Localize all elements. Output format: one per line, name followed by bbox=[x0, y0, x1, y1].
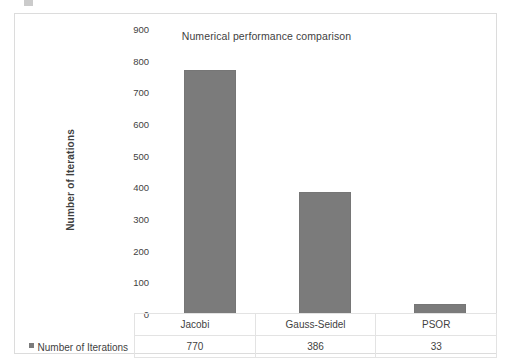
bar-gauss-seidel bbox=[299, 192, 351, 314]
legend-swatch-icon bbox=[29, 343, 34, 348]
value-cell-1: 386 bbox=[255, 336, 376, 358]
value-cell-0: 770 bbox=[135, 336, 256, 358]
y-axis-tick-700: 700 bbox=[133, 87, 149, 98]
column-header-2: PSOR bbox=[376, 314, 497, 336]
top-crop-artifact bbox=[24, 0, 33, 6]
y-axis-tick-400: 400 bbox=[133, 182, 149, 193]
y-axis-tick-900: 900 bbox=[133, 24, 149, 35]
chart-container: Numerical performance comparison Number … bbox=[14, 13, 497, 354]
legend-entry: Number of Iterations bbox=[14, 336, 135, 358]
y-axis-tick-300: 300 bbox=[133, 214, 149, 225]
bar-jacobi bbox=[184, 70, 236, 314]
y-axis-tick-500: 500 bbox=[133, 150, 149, 161]
table-row-values: Number of Iterations 770 386 33 bbox=[14, 336, 497, 358]
y-axis-tick-600: 600 bbox=[133, 119, 149, 130]
data-table: Jacobi Gauss-Seidel PSOR Number of Itera… bbox=[14, 313, 497, 355]
plot-area bbox=[152, 29, 497, 314]
legend-spacer-cell bbox=[14, 314, 135, 336]
data-table-grid: Jacobi Gauss-Seidel PSOR Number of Itera… bbox=[14, 313, 497, 358]
table-row-headers: Jacobi Gauss-Seidel PSOR bbox=[14, 314, 497, 336]
y-axis-title: Number of Iterations bbox=[62, 110, 78, 250]
value-cell-2: 33 bbox=[376, 336, 497, 358]
column-header-0: Jacobi bbox=[135, 314, 256, 336]
y-axis-tick-200: 200 bbox=[133, 245, 149, 256]
column-header-1: Gauss-Seidel bbox=[255, 314, 376, 336]
y-axis-tick-100: 100 bbox=[133, 277, 149, 288]
y-axis-title-label: Number of Iterations bbox=[65, 129, 76, 231]
y-axis-tick-labels: 0100200300400500600700800900 bbox=[105, 29, 149, 314]
legend-label: Number of Iterations bbox=[38, 341, 129, 352]
y-axis-tick-800: 800 bbox=[133, 55, 149, 66]
